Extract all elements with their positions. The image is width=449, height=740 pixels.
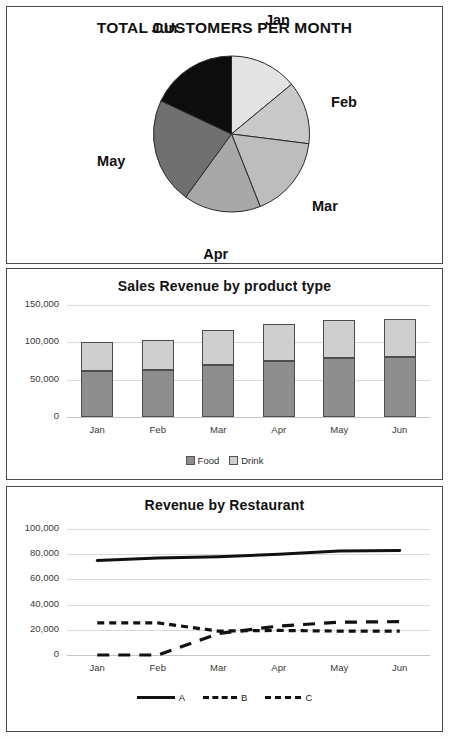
line-x-tick-label: Apr bbox=[249, 662, 310, 673]
legend-item-a[interactable]: A bbox=[137, 692, 185, 703]
bar-chart-title: Sales Revenue by product type bbox=[7, 278, 442, 294]
bar-column-mar bbox=[202, 305, 234, 417]
line-chart-title: Revenue by Restaurant bbox=[7, 497, 442, 513]
bar-x-tick-label: Jun bbox=[370, 424, 431, 435]
pie-label-feb: Feb bbox=[331, 94, 357, 110]
bar-gridline bbox=[67, 380, 430, 381]
legend-line-icon bbox=[203, 696, 237, 699]
pie-chart-title: TOTAL CUSTOMERS PER MONTH bbox=[7, 19, 442, 37]
legend-item-drink[interactable]: Drink bbox=[229, 455, 263, 466]
line-chart-panel: Revenue by Restaurant 020,00040,00060,00… bbox=[6, 486, 443, 732]
line-x-tick-label: Feb bbox=[128, 662, 189, 673]
pie-chart-area: JanFebMarAprMayJun bbox=[7, 37, 449, 237]
bar-segment-drink bbox=[384, 319, 416, 357]
pie-label-may: May bbox=[97, 153, 125, 169]
bar-column-jun bbox=[384, 305, 416, 417]
pie-chart-panel: TOTAL CUSTOMERS PER MONTH JanFebMarAprMa… bbox=[6, 6, 443, 264]
bar-segment-drink bbox=[263, 324, 295, 361]
line-x-tick-label: Jan bbox=[67, 662, 128, 673]
legend-line-icon bbox=[137, 696, 175, 699]
bar-column-apr bbox=[263, 305, 295, 417]
line-plot-area: 020,00040,00060,00080,000100,000 JanFebM… bbox=[7, 521, 442, 671]
legend-label: Drink bbox=[241, 455, 263, 466]
bar-y-tick-label: 0 bbox=[7, 410, 59, 421]
line-x-tick-label: Jun bbox=[370, 662, 431, 673]
line-series-a bbox=[97, 550, 400, 560]
legend-label: C bbox=[305, 692, 312, 703]
bar-y-tick-label: 100,000 bbox=[7, 335, 59, 346]
bar-segment-drink bbox=[142, 340, 174, 370]
bar-segment-food bbox=[323, 358, 355, 417]
bar-segment-drink bbox=[323, 320, 355, 358]
line-x-tick-label: Mar bbox=[188, 662, 249, 673]
bar-gridline bbox=[67, 417, 430, 418]
legend-item-b[interactable]: B bbox=[203, 692, 247, 703]
bar-y-tick-label: 150,000 bbox=[7, 298, 59, 309]
bar-plot-area: 050,000100,000150,000 JanFebMarAprMayJun bbox=[7, 299, 442, 434]
bar-x-tick-label: Mar bbox=[188, 424, 249, 435]
legend-item-food[interactable]: Food bbox=[186, 455, 220, 466]
bar-chart-legend: FoodDrink bbox=[7, 455, 442, 466]
bar-segment-drink bbox=[81, 342, 113, 371]
legend-label: A bbox=[179, 692, 185, 703]
bar-x-tick-label: Apr bbox=[249, 424, 310, 435]
line-x-tick-label: May bbox=[309, 662, 370, 673]
bar-gridline bbox=[67, 305, 430, 306]
bar-x-tick-label: May bbox=[309, 424, 370, 435]
bar-x-tick-label: Feb bbox=[128, 424, 189, 435]
pie-label-jan: Jan bbox=[265, 12, 290, 28]
legend-label: B bbox=[241, 692, 247, 703]
line-chart-legend: ABC bbox=[7, 692, 442, 703]
pie-svg bbox=[7, 37, 449, 237]
line-series-svg bbox=[7, 521, 444, 671]
legend-item-c[interactable]: C bbox=[265, 692, 312, 703]
line-series-c bbox=[97, 622, 400, 655]
legend-label: Food bbox=[198, 455, 220, 466]
legend-line-icon bbox=[265, 696, 301, 699]
pie-label-jun: Jun bbox=[151, 20, 177, 36]
bar-segment-food bbox=[142, 370, 174, 417]
bar-column-may bbox=[323, 305, 355, 417]
bar-segment-food bbox=[81, 371, 113, 417]
legend-swatch-icon bbox=[229, 456, 238, 465]
bar-column-feb bbox=[142, 305, 174, 417]
pie-label-mar: Mar bbox=[312, 198, 338, 214]
pie-label-apr: Apr bbox=[203, 246, 228, 262]
bar-segment-food bbox=[202, 365, 234, 417]
bar-y-tick-label: 50,000 bbox=[7, 373, 59, 384]
infographic-page: TOTAL CUSTOMERS PER MONTH JanFebMarAprMa… bbox=[0, 0, 449, 740]
bar-segment-drink bbox=[202, 330, 234, 364]
bar-segment-food bbox=[263, 361, 295, 417]
bar-segment-food bbox=[384, 357, 416, 417]
legend-swatch-icon bbox=[186, 456, 195, 465]
bar-gridline bbox=[67, 342, 430, 343]
bar-chart-panel: Sales Revenue by product type 050,000100… bbox=[6, 268, 443, 480]
bar-column-jan bbox=[81, 305, 113, 417]
bar-x-tick-label: Jan bbox=[67, 424, 128, 435]
